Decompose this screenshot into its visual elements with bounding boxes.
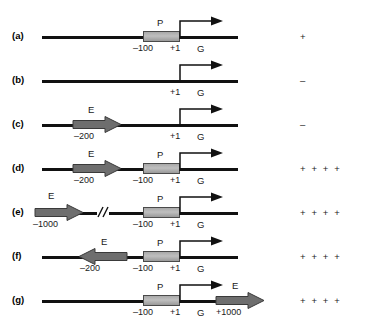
- promoter-label: P: [157, 282, 163, 292]
- result-value-d: + + + +: [300, 164, 370, 174]
- transcription-start-arrow-icon: [179, 236, 227, 260]
- promoter-box: [143, 295, 180, 306]
- promoter-box: [143, 207, 180, 218]
- diagram-row-d: (d) E –200 P –100 +1 G + + + +: [0, 146, 379, 192]
- diagram-row-f: (f) E –200 P –100 +1 G + + + +: [0, 234, 379, 280]
- gene-label: G: [197, 132, 204, 142]
- transcription-start-arrow-icon: [179, 104, 227, 128]
- enhancer-label: E: [88, 149, 94, 159]
- sequence-break-icon: [94, 204, 112, 221]
- coordinate-minus100: –100: [133, 264, 153, 273]
- coordinate-minus200: –200: [80, 264, 100, 273]
- result-value-f: + + + +: [300, 252, 370, 262]
- promoter-label: P: [157, 194, 163, 204]
- coordinate-plus1000: +1000: [216, 308, 241, 317]
- coordinate-minus100: –100: [133, 176, 153, 185]
- result-value-e: + + + +: [300, 208, 370, 218]
- result-value-b: –: [300, 76, 370, 86]
- panel-label-d: (d): [12, 163, 24, 173]
- panel-label-a: (a): [12, 31, 24, 41]
- coordinate-minus200: –200: [74, 176, 94, 185]
- coordinate-plus1: +1: [170, 132, 180, 141]
- coordinate-plus1: +1: [170, 220, 180, 229]
- coordinate-plus1: +1: [170, 44, 180, 53]
- panel-label-f: (f): [12, 251, 22, 261]
- diagram-row-a: (a) P –100 +1 G +: [0, 14, 379, 60]
- coordinate-plus1: +1: [170, 88, 180, 97]
- panel-label-e: (e): [12, 207, 24, 217]
- coordinate-minus100: –100: [133, 220, 153, 229]
- transcription-start-arrow-icon: [179, 60, 227, 84]
- result-value-g: + + + +: [300, 296, 370, 306]
- gene-label: G: [197, 220, 204, 230]
- promoter-label: P: [157, 150, 163, 160]
- enhancer-label: E: [48, 191, 54, 201]
- promoter-box: [143, 251, 180, 262]
- coordinate-minus1000: –1000: [33, 220, 58, 229]
- coordinate-minus100: –100: [133, 308, 153, 317]
- panel-label-g: (g): [12, 295, 24, 305]
- panel-label-b: (b): [12, 75, 24, 85]
- gene-label: G: [197, 176, 204, 186]
- promoter-box: [143, 31, 180, 42]
- transcription-start-arrow-icon: [179, 192, 227, 216]
- promoter-label: P: [157, 238, 163, 248]
- coordinate-minus100: –100: [133, 44, 153, 53]
- panel-label-c: (c): [12, 119, 24, 129]
- coordinate-minus200: –200: [74, 132, 94, 141]
- result-value-c: –: [300, 120, 370, 130]
- coordinate-plus1: +1: [170, 308, 180, 317]
- diagram-row-b: (b) +1 G –: [0, 58, 379, 104]
- transcription-start-arrow-icon: [179, 16, 227, 40]
- transcription-start-arrow-icon: [179, 148, 227, 172]
- gene-label: G: [197, 88, 204, 98]
- diagram-row-g: (g) P –100 +1 G E +1000 + + + +: [0, 278, 379, 324]
- coordinate-plus1: +1: [170, 264, 180, 273]
- enhancer-label: E: [88, 105, 94, 115]
- gene-label: G: [197, 308, 204, 318]
- promoter-label: P: [157, 18, 163, 28]
- coordinate-plus1: +1: [170, 176, 180, 185]
- gene-label: G: [197, 44, 204, 54]
- gene-regulation-diagram: (a) P –100 +1 G + (b) +1 G –: [0, 0, 379, 326]
- enhancer-label: E: [101, 237, 107, 247]
- diagram-row-e: (e) E –1000 P –100 +1 G: [0, 190, 379, 236]
- enhancer-label: E: [232, 281, 238, 291]
- diagram-row-c: (c) E –200 +1 G –: [0, 102, 379, 148]
- gene-label: G: [197, 264, 204, 274]
- promoter-box: [143, 163, 180, 174]
- result-value-a: +: [300, 32, 370, 42]
